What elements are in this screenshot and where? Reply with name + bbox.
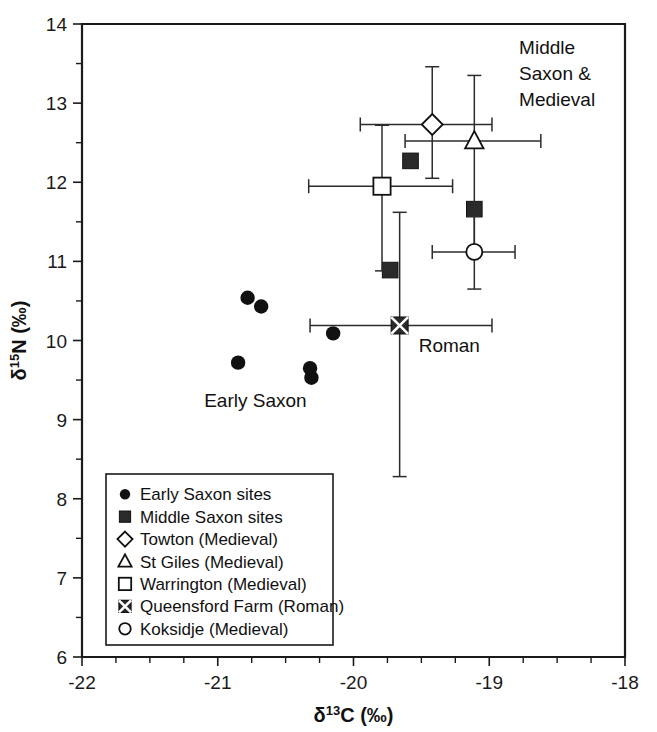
x-axis-ticks: -22-21-20-19-18 <box>68 657 638 693</box>
y-tick-label: 7 <box>56 568 67 589</box>
x-tick-label: -18 <box>611 672 638 693</box>
legend-group: Early Saxon sitesMiddle Saxon sitesTowto… <box>106 474 344 645</box>
legend-item[interactable]: Middle Saxon sites <box>119 508 282 527</box>
x-tick-label: -21 <box>204 672 231 693</box>
legend-item[interactable]: Queensford Farm (Roman) <box>119 597 344 616</box>
legend-item-label: Warrington (Medieval) <box>140 575 307 594</box>
series-towton-medieval <box>360 67 492 179</box>
data-series-group <box>231 67 541 477</box>
legend-item-label: St Giles (Medieval) <box>140 553 284 572</box>
marker-filled-circle <box>326 326 340 340</box>
legend-item-label: Queensford Farm (Roman) <box>140 597 344 616</box>
marker-filled-circle <box>231 355 245 369</box>
annotation-roman: Roman <box>419 335 480 356</box>
annotation-line: Medieval <box>519 89 595 110</box>
y-tick-label: 10 <box>46 331 67 352</box>
annotation-line: Middle <box>519 37 575 58</box>
legend-item-label: Early Saxon sites <box>140 485 271 504</box>
legend-item[interactable]: Early Saxon sites <box>120 485 272 504</box>
plot-canvas: -22-21-20-19-18 67891011121314 MiddleSax… <box>0 0 657 732</box>
legend-item[interactable]: Towton (Medieval) <box>117 530 278 549</box>
legend-item[interactable]: Koksidje (Medieval) <box>119 620 288 639</box>
marker-filled-circle <box>304 370 318 384</box>
legend-item[interactable]: Warrington (Medieval) <box>119 575 307 594</box>
scatter-plot-figure: -22-21-20-19-18 67891011121314 MiddleSax… <box>0 0 657 732</box>
marker-filled-square <box>382 262 398 278</box>
y-tick-label: 6 <box>56 647 67 668</box>
series-warrington-medieval <box>309 125 453 271</box>
y-tick-label: 13 <box>46 93 67 114</box>
marker-open-square <box>119 578 131 590</box>
legend-item-label: Koksidje (Medieval) <box>140 620 288 639</box>
x-axis-label: δ13C (‰) <box>314 703 394 727</box>
annotation-middle-saxon-medieval: MiddleSaxon &Medieval <box>519 37 595 110</box>
y-axis-label: δ15N (‰) <box>7 301 31 381</box>
x-tick-label: -20 <box>340 672 367 693</box>
marker-open-diamond <box>422 114 443 135</box>
y-axis-ticks: 67891011121314 <box>46 14 82 668</box>
y-tick-label: 8 <box>56 489 67 510</box>
series-koksidje-medieval <box>432 216 515 289</box>
y-tick-label: 12 <box>46 172 67 193</box>
marker-filled-square <box>119 511 130 522</box>
x-tick-label: -19 <box>476 672 503 693</box>
legend-item[interactable]: St Giles (Medieval) <box>118 553 283 572</box>
series-early-saxon-sites <box>231 291 340 385</box>
annotation-line: Saxon & <box>519 63 591 84</box>
marker-filled-circle <box>120 489 130 499</box>
x-tick-label: -22 <box>68 672 95 693</box>
marker-filled-square <box>403 153 419 169</box>
legend-item-label: Middle Saxon sites <box>140 508 283 527</box>
annotation-early-saxon: Early Saxon <box>204 390 306 411</box>
marker-open-triangle <box>465 131 483 148</box>
marker-filled-circle <box>240 291 254 305</box>
marker-open-circle <box>119 623 131 635</box>
marker-open-square <box>373 178 390 195</box>
marker-filled-circle <box>254 299 268 313</box>
y-tick-label: 11 <box>47 251 67 272</box>
y-tick-label: 9 <box>56 410 67 431</box>
annotation-line: Early Saxon <box>204 390 306 411</box>
annotation-line: Roman <box>419 335 480 356</box>
legend-item-label: Towton (Medieval) <box>140 530 278 549</box>
y-tick-label: 14 <box>46 14 68 35</box>
marker-open-circle <box>466 244 482 260</box>
